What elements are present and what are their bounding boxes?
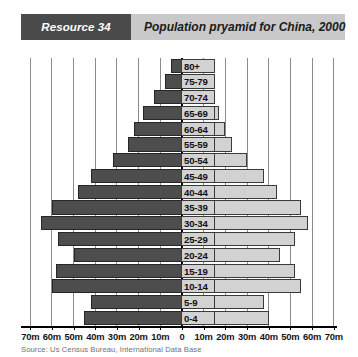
age-group-label: 30-34 (181, 216, 215, 230)
age-group-label: 15-19 (181, 264, 215, 278)
x-tick-label: 40m (86, 331, 104, 342)
x-tick (334, 326, 335, 330)
male-bar (84, 311, 182, 325)
male-bar (91, 169, 182, 183)
pyramid-row: 70-74 (0, 90, 358, 106)
source-caption: Source: Us Census Bureau, International … (21, 345, 202, 354)
x-tick (139, 326, 140, 330)
x-tick-label: 60m (303, 331, 321, 342)
x-tick (52, 326, 53, 330)
x-tick-label: 30m (108, 331, 126, 342)
male-bar (91, 295, 182, 309)
age-group-label: 80+ (181, 59, 215, 73)
pyramid-row: 65-69 (0, 105, 358, 121)
x-tick (312, 326, 313, 330)
x-tick (160, 326, 161, 330)
male-bar (58, 232, 182, 246)
male-bar (154, 90, 182, 104)
x-tick-label: 40m (260, 331, 278, 342)
x-tick (117, 326, 118, 330)
x-tick-label: 60m (43, 331, 61, 342)
male-bar (143, 106, 182, 120)
x-tick-label: 50m (65, 331, 83, 342)
pyramid-row: 20-24 (0, 247, 358, 263)
x-tick-label: 50m (281, 331, 299, 342)
x-tick-label: 10m (151, 331, 169, 342)
age-group-label: 75-79 (181, 74, 215, 88)
male-bar (52, 200, 182, 214)
age-group-label: 55-59 (181, 137, 215, 151)
x-tick (290, 326, 291, 330)
age-group-label: 40-44 (181, 185, 215, 199)
x-tick (95, 326, 96, 330)
male-bar (134, 122, 182, 136)
chart-area: 0-45-910-1415-1920-2425-2930-3435-3940-4… (0, 58, 358, 326)
male-bar (56, 264, 182, 278)
x-tick (269, 326, 270, 330)
age-group-label: 70-74 (181, 90, 215, 104)
male-bar (128, 137, 182, 151)
x-tick-label: 0 (179, 331, 184, 342)
pyramid-row: 10-14 (0, 279, 358, 295)
x-tick (204, 326, 205, 330)
age-group-label: 65-69 (181, 106, 215, 120)
pyramid-row: 30-34 (0, 216, 358, 232)
population-pyramid-figure: Resource 34 Population pryamid for China… (0, 0, 358, 357)
pyramid-row: 5-9 (0, 294, 358, 310)
pyramid-row: 50-54 (0, 153, 358, 169)
x-tick (182, 326, 183, 330)
age-group-label: 0-4 (181, 311, 215, 325)
age-group-label: 50-54 (181, 153, 215, 167)
age-group-label: 10-14 (181, 279, 215, 293)
male-bar (165, 74, 182, 88)
figure-title: Population pryamid for China, 2000 (131, 14, 345, 40)
age-group-label: 20-24 (181, 248, 215, 262)
male-bar (113, 153, 182, 167)
age-group-label: 5-9 (181, 295, 215, 309)
pyramid-row: 40-44 (0, 184, 358, 200)
pyramid-row: 0-4 (0, 310, 358, 326)
resource-badge: Resource 34 (21, 14, 131, 40)
pyramid-row: 75-79 (0, 74, 358, 90)
pyramid-row: 35-39 (0, 200, 358, 216)
male-bar (41, 216, 182, 230)
age-group-label: 45-49 (181, 169, 215, 183)
age-group-label: 60-64 (181, 122, 215, 136)
x-tick-label: 30m (238, 331, 256, 342)
x-axis-labels: 70m60m50m40m30m20m10m010m20m30m40m50m60m… (0, 331, 358, 345)
age-group-label: 35-39 (181, 200, 215, 214)
pyramid-row: 60-64 (0, 121, 358, 137)
male-bar (78, 185, 182, 199)
pyramid-row: 25-29 (0, 231, 358, 247)
x-tick (30, 326, 31, 330)
x-tick (247, 326, 248, 330)
x-tick-label: 20m (216, 331, 234, 342)
x-tick-label: 70m (21, 331, 39, 342)
x-tick (74, 326, 75, 330)
x-tick (225, 326, 226, 330)
male-bar (52, 279, 182, 293)
figure-header: Resource 34 Population pryamid for China… (21, 14, 337, 40)
pyramid-row: 45-49 (0, 168, 358, 184)
x-tick-label: 70m (325, 331, 343, 342)
pyramid-row: 80+ (0, 58, 358, 74)
plot-canvas: 0-45-910-1415-1920-2425-2930-3435-3940-4… (0, 58, 358, 326)
pyramid-row: 15-19 (0, 263, 358, 279)
male-bar (74, 248, 182, 262)
x-tick-label: 20m (130, 331, 148, 342)
x-tick-label: 10m (195, 331, 213, 342)
age-group-label: 25-29 (181, 232, 215, 246)
pyramid-row: 55-59 (0, 137, 358, 153)
bar-rows: 0-45-910-1415-1920-2425-2930-3435-3940-4… (0, 58, 358, 326)
